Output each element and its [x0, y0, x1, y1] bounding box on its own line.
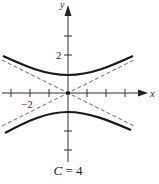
- caption-variable: C: [53, 163, 62, 178]
- x-axis-label: x: [149, 87, 155, 99]
- caption-equals: =: [62, 163, 76, 178]
- hyperbola-diagram: x y 2 −2: [0, 0, 159, 184]
- y-axis: [64, 12, 72, 162]
- x-axis: [2, 89, 142, 97]
- y-tick-label-2: 2: [56, 49, 62, 61]
- caption-value: 4: [76, 163, 83, 178]
- y-axis-label: y: [59, 0, 65, 10]
- origin-marker: [66, 92, 70, 95]
- x-axis-arrow-icon: [138, 90, 148, 97]
- figure-caption: C = 4: [0, 163, 136, 179]
- y-axis-arrow-icon: [65, 5, 72, 16]
- x-tick-label-neg2: −2: [21, 98, 33, 110]
